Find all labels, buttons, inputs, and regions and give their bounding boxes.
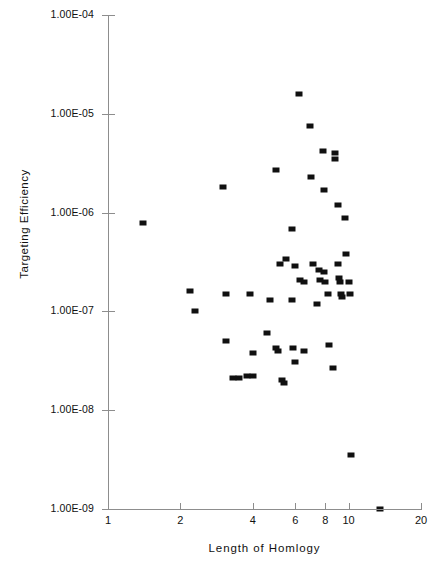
data-point	[343, 252, 350, 257]
data-point	[309, 262, 316, 267]
data-point	[320, 187, 327, 192]
x-tick-mark	[349, 503, 350, 510]
data-point	[334, 202, 341, 207]
data-point	[288, 227, 295, 232]
data-point	[187, 289, 194, 294]
data-point	[223, 339, 230, 344]
x-tick-mark	[295, 503, 296, 510]
data-point	[292, 359, 299, 364]
x-tick-label: 2	[177, 514, 183, 526]
data-point	[249, 350, 256, 355]
data-point	[332, 156, 339, 161]
y-tick-label: 1.00E-08	[8, 403, 94, 415]
y-tick-mark	[102, 410, 115, 411]
data-point	[306, 124, 313, 129]
data-point	[314, 301, 321, 306]
y-tick-label: 1.00E-05	[8, 107, 94, 119]
x-tick-label: 20	[415, 514, 427, 526]
x-tick-mark	[421, 503, 422, 510]
data-point	[329, 365, 336, 370]
data-point	[326, 342, 333, 347]
data-point	[295, 91, 302, 96]
data-point	[339, 294, 346, 299]
data-point	[290, 345, 297, 350]
data-point	[334, 262, 341, 267]
data-point	[292, 263, 299, 268]
plot-area	[0, 0, 438, 568]
data-point	[308, 174, 315, 179]
data-point	[277, 262, 284, 267]
data-point	[247, 292, 254, 297]
data-point	[332, 151, 339, 156]
data-point	[336, 279, 343, 284]
x-axis-title: Length of Homlogy	[108, 542, 421, 554]
data-point	[264, 331, 271, 336]
data-point	[249, 374, 256, 379]
data-point	[275, 348, 282, 353]
x-tick-label: 4	[250, 514, 256, 526]
x-tick-mark	[108, 503, 109, 510]
data-point	[345, 279, 352, 284]
x-tick-label: 8	[322, 514, 328, 526]
data-point	[288, 298, 295, 303]
data-point	[192, 309, 199, 314]
data-point	[235, 376, 242, 381]
y-axis-line	[108, 15, 109, 510]
x-tick-label: 10	[342, 514, 354, 526]
data-point	[320, 270, 327, 275]
data-point	[319, 149, 326, 154]
y-axis-title: Targeting Efficiency	[18, 144, 30, 304]
data-point	[281, 380, 288, 385]
y-tick-label: 1.00E-04	[8, 8, 94, 20]
data-point	[342, 216, 349, 221]
x-tick-label: 1	[105, 514, 111, 526]
data-point	[300, 279, 307, 284]
y-tick-label: 1.00E-09	[8, 502, 94, 514]
y-tick-label: 1.00E-07	[8, 304, 94, 316]
y-tick-mark	[102, 311, 115, 312]
data-point	[300, 348, 307, 353]
x-tick-mark	[180, 503, 181, 510]
x-tick-label: 6	[292, 514, 298, 526]
data-point	[347, 453, 354, 458]
data-point	[283, 256, 290, 261]
y-tick-mark	[102, 114, 115, 115]
data-point	[266, 298, 273, 303]
data-point	[140, 221, 147, 226]
y-tick-mark	[102, 213, 115, 214]
y-tick-mark	[102, 15, 115, 16]
x-tick-mark	[325, 503, 326, 510]
scatter-plot-figure: 1.00E-041.00E-051.00E-061.00E-071.00E-08…	[0, 0, 438, 568]
x-axis-line	[108, 509, 421, 510]
data-point	[322, 279, 329, 284]
data-point	[324, 292, 331, 297]
data-point	[273, 167, 280, 172]
data-point	[346, 292, 353, 297]
data-point	[223, 292, 230, 297]
x-tick-mark	[253, 503, 254, 510]
data-point	[219, 185, 226, 190]
